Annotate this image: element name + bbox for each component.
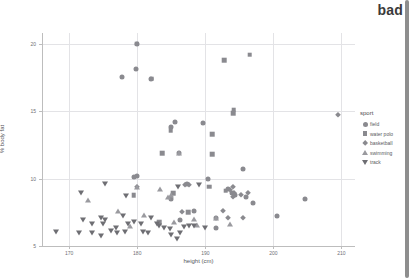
- data-point-track: [78, 191, 84, 196]
- chart-screenshot: bad 5101520 height (cm) % body fat 17018…: [0, 0, 419, 278]
- data-point-track: [76, 231, 82, 236]
- data-point-track: [113, 225, 119, 230]
- data-point-field: [120, 75, 125, 80]
- data-point-field: [178, 218, 183, 223]
- data-point-track: [102, 181, 108, 186]
- data-point-track: [100, 221, 106, 226]
- data-point-water-polo: [186, 210, 191, 215]
- data-point-track: [138, 222, 144, 227]
- data-point-basketball: [186, 182, 192, 188]
- y-axis-line: [42, 33, 43, 246]
- x-tick-mark: [341, 246, 342, 249]
- data-point-track: [80, 217, 86, 222]
- gridline-vertical: [205, 33, 206, 246]
- data-point-track: [145, 230, 151, 235]
- data-point-basketball: [335, 112, 341, 118]
- gridline-horizontal: [42, 179, 355, 180]
- x-tick-label: 180: [133, 250, 141, 256]
- y-tick-label: 20: [30, 41, 36, 47]
- data-point-track: [122, 229, 128, 234]
- data-point-track: [131, 220, 137, 225]
- data-point-swimming: [171, 220, 177, 225]
- gridline-vertical: [273, 33, 274, 246]
- data-point-water-polo: [132, 193, 137, 198]
- gridline-horizontal: [42, 44, 355, 45]
- legend-title: sport: [360, 110, 412, 116]
- data-point-swimming: [168, 193, 174, 198]
- gridline-vertical: [137, 33, 138, 246]
- data-point-track: [175, 184, 181, 189]
- data-point-water-polo: [168, 128, 173, 133]
- plot-area: [42, 33, 355, 246]
- legend-item-field[interactable]: field: [360, 120, 412, 128]
- diamond-marker-icon: [360, 141, 370, 145]
- data-point-swimming: [85, 198, 91, 203]
- data-point-water-polo: [134, 41, 139, 46]
- page-title: bad: [378, 3, 404, 17]
- gridline-horizontal: [42, 111, 355, 112]
- data-point-basketball: [220, 208, 226, 214]
- data-point-track: [98, 233, 104, 238]
- data-point-track: [120, 213, 126, 218]
- scatter-chart: 5101520 height (cm) % body fat 170180190…: [0, 0, 360, 278]
- data-point-swimming: [227, 222, 233, 227]
- data-point-field: [240, 167, 245, 172]
- data-point-basketball: [179, 209, 185, 215]
- data-point-track: [202, 226, 208, 231]
- x-axis-line: [42, 246, 355, 247]
- x-tick-mark: [69, 246, 70, 249]
- data-point-field: [131, 175, 136, 180]
- legend-item-label: basketball: [370, 140, 393, 146]
- legend-item-label: swimming: [370, 150, 392, 156]
- square-marker-icon: [360, 131, 370, 136]
- data-point-track: [89, 222, 95, 227]
- data-point-field: [172, 119, 177, 124]
- data-point-basketball: [240, 215, 246, 221]
- x-tick-label: 210: [337, 250, 345, 256]
- data-point-swimming: [176, 150, 182, 155]
- circle-marker-icon: [360, 122, 370, 127]
- legend: sport fieldwater polobasketballswimmingt…: [360, 110, 412, 168]
- data-point-track: [123, 194, 129, 199]
- y-tick-mark: [39, 44, 42, 45]
- data-point-field: [214, 226, 219, 231]
- data-point-track: [167, 227, 173, 232]
- data-point-field: [191, 208, 196, 213]
- y-tick-label: 5: [33, 243, 36, 249]
- x-tick-mark: [205, 246, 206, 249]
- x-tick-label: 200: [269, 250, 277, 256]
- data-point-field: [200, 121, 205, 126]
- data-point-track: [191, 224, 197, 229]
- data-point-track: [114, 231, 120, 236]
- legend-item-label: water polo: [370, 131, 393, 137]
- y-axis-ticks: 5101520: [0, 0, 36, 278]
- data-point-track: [196, 183, 202, 188]
- data-point-swimming: [191, 217, 197, 222]
- legend-item-water-polo[interactable]: water polo: [360, 130, 412, 138]
- data-point-swimming: [134, 185, 140, 190]
- data-point-water-polo: [231, 111, 236, 116]
- gridline-vertical: [341, 33, 342, 246]
- legend-item-label: track: [370, 159, 381, 165]
- data-point-swimming: [213, 216, 219, 221]
- triangle-down-marker-icon: [360, 160, 370, 165]
- data-point-field: [275, 214, 280, 219]
- y-axis-title: % body fat: [0, 125, 5, 153]
- legend-item-swimming[interactable]: swimming: [360, 149, 412, 157]
- data-point-track: [174, 237, 180, 242]
- data-point-water-polo: [210, 132, 215, 137]
- data-point-basketball: [229, 194, 235, 200]
- x-tick-mark: [137, 246, 138, 249]
- gridline-vertical: [69, 33, 70, 246]
- data-point-field: [302, 197, 307, 202]
- legend-item-basketball[interactable]: basketball: [360, 139, 412, 147]
- data-point-track: [125, 221, 131, 226]
- data-point-water-polo: [210, 152, 215, 157]
- y-tick-label: 10: [30, 176, 36, 182]
- data-point-water-polo: [160, 151, 165, 156]
- data-point-field: [250, 200, 255, 205]
- x-tick-label: 190: [201, 250, 209, 256]
- legend-item-track[interactable]: track: [360, 158, 412, 166]
- triangle-up-marker-icon: [360, 150, 370, 155]
- data-point-basketball: [225, 215, 231, 221]
